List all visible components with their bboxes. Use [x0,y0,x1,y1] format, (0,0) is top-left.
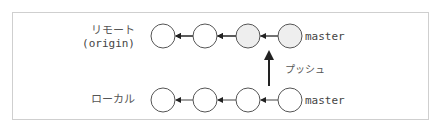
remote-commit-1 [151,24,175,48]
remote-commit-2 [193,24,217,48]
remote-label-line1: リモート [82,24,135,37]
local-commit-1 [151,88,175,112]
remote-commit-4 [278,24,302,48]
local-commit-row [151,88,302,112]
remote-label: リモート (origin) [82,24,135,50]
local-commit-2 [193,88,217,112]
local-commit-4 [278,88,302,112]
local-branch-label: master [305,94,345,107]
push-arrow-icon [264,50,274,86]
local-label: ローカル [91,93,135,106]
commit-graph [0,0,440,127]
remote-commit-3 [236,24,260,48]
push-label: プッシュ [285,63,325,76]
local-commit-3 [236,88,260,112]
remote-branch-label: master [305,30,345,43]
remote-label-origin: (origin) [82,37,135,50]
